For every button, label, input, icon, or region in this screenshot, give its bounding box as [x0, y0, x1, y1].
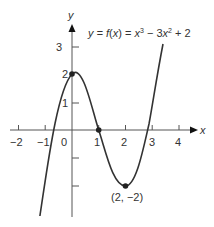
- y-tick-label: 1: [62, 97, 68, 109]
- x-tick-label: 2: [121, 136, 127, 148]
- y-ticks: [72, 47, 79, 186]
- local-min-point: [123, 183, 129, 189]
- y-tick-label: 3: [56, 41, 62, 53]
- x-axis-arrow-icon: [190, 127, 198, 134]
- x-tick-label: 3: [149, 136, 155, 148]
- min-point-label: (2, −2): [111, 191, 143, 203]
- y-axis-label: y: [67, 9, 75, 21]
- local-max-point: [69, 71, 75, 77]
- x-tick-label: 1: [94, 136, 100, 148]
- x-tick-label: 4: [175, 136, 181, 148]
- x-tick-label: −2: [10, 136, 23, 148]
- y-tick-label: 2: [62, 68, 68, 80]
- x-tick-label: 0: [61, 136, 67, 148]
- inflection-point: [96, 127, 102, 133]
- x-axis-label: x: [199, 124, 206, 136]
- x-tick-label: −1: [37, 136, 50, 148]
- equation-label: y = f(x) = x3 − 3x2 + 2: [87, 27, 191, 39]
- function-graph: −2 −1 0 1 2 3 4 3 2 1 y x y = f(x) = x3 …: [0, 0, 214, 227]
- y-axis-arrow-icon: [69, 24, 76, 32]
